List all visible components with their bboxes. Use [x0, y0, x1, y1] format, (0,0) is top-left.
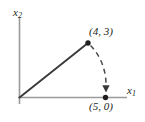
data-point-a [85, 40, 90, 45]
rotation-arc [91, 46, 107, 87]
vector-to-point-a [20, 43, 89, 98]
y-axis-label: x2 [13, 7, 22, 20]
vector-rotation-figure: x2 x1 (4, 3) (5, 0) [0, 0, 145, 122]
x-axis-label: x1 [127, 85, 136, 98]
arc-arrowhead [102, 85, 109, 92]
point-b-label: (5, 0) [89, 101, 113, 112]
y-axis-label-subscript: 2 [18, 11, 22, 20]
point-a-label: (4, 3) [89, 26, 113, 37]
x-axis-label-subscript: 1 [132, 89, 136, 98]
